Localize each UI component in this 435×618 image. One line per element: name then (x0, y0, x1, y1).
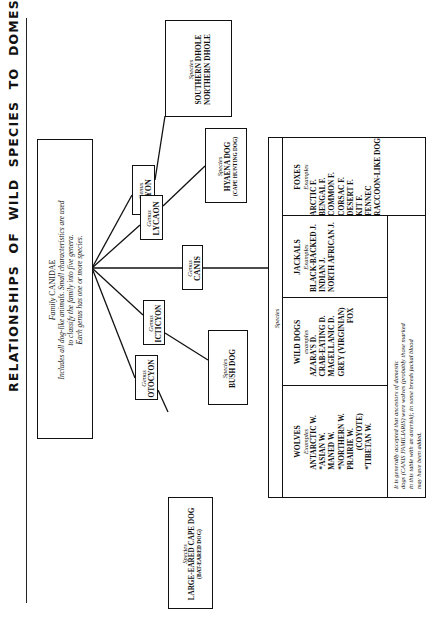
genus-name: OTOCYON (147, 359, 156, 397)
species-name: HYAENA DOG (223, 142, 232, 192)
column-subtitle: examples (302, 330, 309, 354)
table-column-foxes: FOXES Examples ARCTIC F. BENGAL F. COMMO… (283, 138, 425, 216)
canis-species-table: Species FOXES Examples ARCTIC F. BENGAL … (268, 137, 426, 498)
species-name: LARGE-EARED CAPE DOG (188, 508, 196, 601)
genus-label: Genus (145, 210, 152, 227)
species-bush-dog-box: Species BUSH DOG (208, 330, 248, 405)
species-alt-name: (BAT-EARED DOG) (196, 529, 202, 579)
column-subtitle: Examples (302, 244, 309, 269)
genus-name: LYCAON (152, 202, 161, 236)
column-title: WILD DOGS (293, 320, 302, 365)
species-list: ANTARCTIC W. *ASIAN W. MANED W. *NORTHER… (309, 413, 373, 469)
species-label: Species (187, 60, 194, 80)
genus-label: Genus (186, 260, 193, 277)
column-subtitle: Examples (302, 164, 309, 189)
family-desc-line-3: Each genus has one or more species. (75, 235, 84, 344)
table-column-wolves: WOLVES Examples ANTARCTIC W. *ASIAN W. M… (283, 386, 387, 497)
table-column-jackals: JACKALS Examples BLACK-BACKED J. INDIAN … (283, 216, 387, 298)
family-box: Family CANIDAE Includes all dog-like ani… (37, 139, 93, 439)
family-label: Family (48, 298, 57, 321)
genus-label: Genus (147, 315, 154, 332)
family-name: CANIDAE (48, 260, 57, 296)
table-column-wild-dogs: WILD DOGS examples AZARA'S D. CRAB-EATIN… (283, 298, 387, 386)
genus-otocyon-box: Genus OTOCYON (135, 355, 158, 400)
genus-canis-box: Genus CANIS (182, 245, 203, 290)
genus-name: ICTICYON (154, 305, 163, 343)
species-label: Species (181, 544, 188, 564)
species-list: BLACK-BACKED J. INDIAN J. NORTH AFRICAN … (309, 222, 337, 292)
table-header: Species (273, 309, 280, 329)
species-name: NORTHERN DHOLE (203, 34, 212, 105)
genus-lycaon-box: Genus LYCAON (140, 195, 163, 240)
species-list: AZARA'S D. CRAB-EATING D. MAGELLANIC D. … (309, 308, 355, 377)
species-list: ARCTIC F. BENGAL F. COMMON F. CORSAC F. … (309, 138, 383, 216)
family-desc-line-1: Includes all dog-like animals. Small cha… (57, 200, 66, 379)
column-title: JACKALS (293, 239, 302, 274)
species-label: Species (221, 359, 228, 379)
species-dhole-box: Species SOUTHERN DHOLE NORTHERN DHOLE (165, 20, 232, 117)
footnote-line-2: dogs (CANIS FAMILIARIS) were wolves (pro… (399, 323, 407, 489)
footnote-line-4: may have been added. (415, 432, 423, 489)
column-title: FOXES (293, 164, 302, 189)
species-alt-name: (CAPE HUNTING DOG) (232, 137, 238, 196)
column-subtitle: Examples (302, 429, 309, 454)
species-label: Species (216, 157, 223, 177)
footnote-line-1: It is generally accepted that ancestors … (392, 361, 400, 489)
species-large-eared-cape-dog-box: Species LARGE-EARED CAPE DOG (BAT-EARED … (168, 497, 213, 609)
genus-icticyon-box: Genus ICTICYON (143, 300, 165, 345)
footnote-line-3: in this table with an asterisk); in some… (407, 339, 415, 489)
table-header-strip: Species (269, 138, 283, 497)
genus-label: Genus (140, 370, 147, 387)
family-desc-line-2: to classify the family into five genera. (66, 234, 75, 345)
table-footnote: It is generally accepted that ancestors … (387, 216, 425, 497)
genus-name: CANIS (193, 256, 202, 281)
species-name: BUSH DOG (228, 349, 237, 388)
species-hyaena-dog-box: Species HYAENA DOG (CAPE HUNTING DOG) (205, 128, 247, 203)
column-title: WOLVES (293, 425, 302, 458)
species-name: SOUTHERN DHOLE (194, 34, 203, 104)
